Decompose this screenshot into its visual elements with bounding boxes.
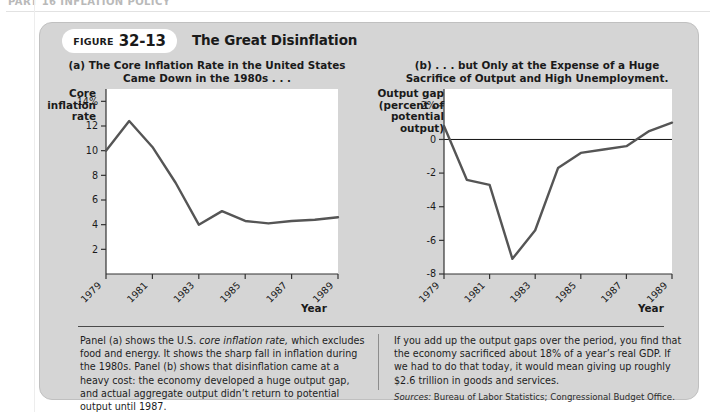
sources-label: Sources:	[394, 392, 431, 402]
chart-panel-a: (a) The Core Inflation Rate in the Unite…	[40, 59, 370, 321]
chart-b-ylabel: Output gap (percent of potential output)	[370, 88, 444, 134]
x-axis-tick-label: 1981	[462, 280, 487, 305]
y-axis-tick-label: 4	[92, 219, 98, 230]
chart-a-xlabel: Year	[301, 302, 327, 314]
x-axis-tick-label: 1985	[553, 280, 578, 305]
page-spine-line	[34, 0, 35, 412]
page-running-header: PART 16 INFLATION POLICY	[0, 0, 716, 13]
running-header-text: PART 16 INFLATION POLICY	[8, 0, 170, 7]
x-axis-tick-label: 1979	[78, 280, 103, 305]
y-axis-tick-label: -2	[426, 167, 436, 178]
y-axis-tick-label: 2	[92, 244, 98, 255]
caption-right-text: If you add up the output gaps over the p…	[394, 334, 684, 387]
y-axis-tick-label: 10	[86, 145, 98, 156]
caption-left-part2: which excludes food and energy. It shows…	[80, 335, 364, 412]
y-axis-tick-label: -4	[426, 201, 436, 212]
chart-a-svg: 14%12108642197919811983198519871989	[40, 59, 370, 321]
caption-left-italic: core inflation rate,	[199, 335, 288, 346]
y-axis-tick-label: 0	[430, 134, 436, 145]
x-axis-tick-label: 1987	[599, 280, 624, 305]
caption-left-part1: Panel (a) shows the U.S.	[80, 335, 199, 346]
y-axis-tick-label: 6	[92, 194, 98, 205]
y-axis-tick-label: 8	[92, 170, 98, 181]
x-axis-tick-label: 1983	[508, 280, 533, 305]
y-axis-tick-label: 14%	[77, 96, 98, 107]
sources-text: Bureau of Labor Statistics; Congressiona…	[431, 392, 675, 402]
caption-column-divider	[378, 334, 379, 390]
chart-b-ylabel-line4: output)	[370, 123, 444, 135]
figure-badge-number: 32-13	[119, 32, 166, 50]
x-axis-tick-label: 1981	[125, 280, 150, 305]
figure-panel: FIGURE 32-13 The Great Disinflation (a) …	[39, 22, 699, 400]
chart-b-ylabel-line1: Output gap	[370, 88, 444, 100]
caption-left-text: Panel (a) shows the U.S. core inflation …	[80, 334, 365, 412]
y-axis-tick-label: 12	[86, 120, 98, 131]
figure-titlebar: FIGURE 32-13 The Great Disinflation	[40, 29, 700, 55]
figure-badge-label: FIGURE	[73, 36, 114, 47]
x-axis-tick-label: 1989	[644, 280, 669, 305]
chart-b-xlabel: Year	[638, 302, 664, 314]
plot-background	[106, 89, 338, 274]
y-axis-tick-label: -8	[426, 268, 436, 279]
x-axis-tick-label: 1989	[310, 280, 335, 305]
caption-divider-rule	[78, 326, 664, 327]
y-axis-tick-label: -6	[426, 235, 436, 246]
x-axis-tick-label: 1983	[171, 280, 196, 305]
x-axis-tick-label: 1987	[264, 280, 289, 305]
figure-number-badge: FIGURE 32-13	[62, 29, 177, 53]
caption-left-column: Panel (a) shows the U.S. core inflation …	[80, 334, 365, 412]
header-divider-rule	[6, 11, 710, 12]
figure-title: The Great Disinflation	[192, 32, 357, 48]
caption-right-column: If you add up the output gaps over the p…	[394, 334, 684, 403]
x-axis-tick-label: 1979	[416, 280, 441, 305]
caption-sources: Sources: Bureau of Labor Statistics; Con…	[394, 392, 684, 403]
x-axis-tick-label: 1985	[218, 280, 243, 305]
